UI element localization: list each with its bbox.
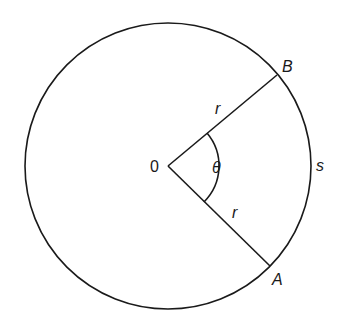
radius-upper-label: r	[215, 100, 221, 117]
point-B-label: B	[282, 58, 293, 75]
arc-length-label: s	[316, 157, 324, 174]
sector-diagram: 0 B A r r θ s	[0, 0, 339, 335]
radius-OA	[168, 166, 270, 266]
angle-theta-label: θ	[212, 159, 221, 176]
radius-OB	[168, 75, 277, 166]
point-A-label: A	[271, 271, 283, 288]
radius-lower-label: r	[232, 204, 238, 221]
center-label: 0	[150, 158, 159, 175]
